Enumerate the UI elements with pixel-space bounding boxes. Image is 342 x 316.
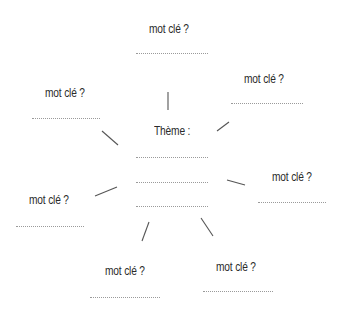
theme-answer-line-2[interactable] <box>136 182 208 183</box>
theme-title: Thème : <box>154 124 190 138</box>
connector-left <box>95 187 117 196</box>
keyword-top-left-label: mot clé ? <box>45 86 85 100</box>
connector-bottom-left <box>142 222 149 241</box>
keyword-top-left-answer-line[interactable] <box>32 118 100 119</box>
keyword-top-right-label: mot clé ? <box>244 72 284 86</box>
connector-top-right <box>217 122 229 131</box>
keyword-left-label: mot clé ? <box>29 193 69 207</box>
connector-bottom-right <box>201 218 213 236</box>
keyword-top-right-answer-line[interactable] <box>231 103 303 104</box>
theme-answer-line-1[interactable] <box>136 157 208 158</box>
keyword-bottom-right-answer-line[interactable] <box>203 291 273 292</box>
keyword-right-label: mot clé ? <box>272 170 312 184</box>
connector-top-left <box>102 131 118 145</box>
keyword-bottom-right-label: mot clé ? <box>216 260 256 274</box>
keyword-left-answer-line[interactable] <box>16 226 84 227</box>
theme-answer-line-3[interactable] <box>136 206 208 207</box>
keyword-top-answer-line[interactable] <box>136 53 208 54</box>
connector-right <box>227 180 245 185</box>
keyword-bottom-left-answer-line[interactable] <box>90 297 160 298</box>
keyword-right-answer-line[interactable] <box>258 202 326 203</box>
connector-lines <box>0 0 342 316</box>
keyword-top-label: mot clé ? <box>149 22 189 36</box>
keyword-bottom-left-label: mot clé ? <box>105 264 145 278</box>
